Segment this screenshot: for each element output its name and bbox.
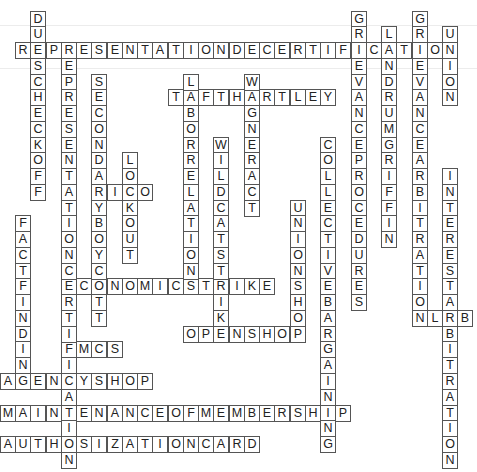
grid-cell: H [305, 405, 321, 422]
grid-cell: N [381, 58, 397, 75]
grid-cell: R [61, 294, 77, 311]
grid-cell: F [61, 341, 77, 358]
grid-cell: I [15, 341, 31, 358]
grid-cell: S [290, 405, 306, 422]
grid-cell: L [320, 184, 336, 201]
grid-cell: N [412, 310, 428, 327]
grid-cell: E [61, 278, 77, 295]
grid-cell: N [442, 452, 458, 469]
grid-cell: E [30, 373, 46, 390]
grid-cell: E [76, 42, 92, 59]
grid-cell: H [290, 294, 306, 311]
grid-cell: I [412, 278, 428, 295]
grid-cell: N [442, 184, 458, 201]
grid-cell: I [61, 215, 77, 232]
grid-cell: F [335, 42, 351, 59]
grid-cell: E [259, 278, 275, 295]
grid-cell: I [61, 326, 77, 343]
grid-cell: E [351, 215, 367, 232]
grid-cell: O [91, 278, 107, 295]
grid-cell: E [213, 326, 229, 343]
grid-cell: I [15, 294, 31, 311]
grid-cell: E [107, 42, 123, 59]
grid-cell: T [122, 247, 138, 264]
grid-cell: A [244, 168, 260, 185]
grid-cell: E [442, 247, 458, 264]
grid-cell: L [122, 152, 138, 169]
grid-cell: L [320, 168, 336, 185]
grid-cell: I [61, 357, 77, 374]
grid-cell: O [61, 231, 77, 248]
grid-cell: S [91, 42, 107, 59]
grid-cell: O [122, 373, 138, 390]
grid-cell: N [290, 215, 306, 232]
grid-cell: A [213, 215, 229, 232]
grid-cell: C [320, 215, 336, 232]
grid-cell: I [442, 58, 458, 75]
grid-cell: I [213, 294, 229, 311]
grid-cell: A [213, 436, 229, 453]
grid-cell: T [213, 89, 229, 106]
grid-cell: N [442, 89, 458, 106]
grid-cell: S [213, 247, 229, 264]
grid-cell: R [442, 310, 458, 327]
grid-cell: D [351, 231, 367, 248]
grid-cell: A [152, 42, 168, 59]
grid-cell: R [442, 373, 458, 390]
grid-cell: A [183, 89, 199, 106]
grid-cell: Z [107, 436, 123, 453]
grid-cell: O [351, 184, 367, 201]
grid-cell: U [15, 436, 31, 453]
grid-cell: N [412, 105, 428, 122]
grid-cell: E [259, 405, 275, 422]
grid-cell: O [442, 436, 458, 453]
grid-cell: R [351, 26, 367, 43]
grid-cell: R [213, 278, 229, 295]
grid-cell: R [91, 184, 107, 201]
grid-cell: A [61, 184, 77, 201]
grid-cell: Y [320, 89, 336, 106]
grid-cell: B [412, 184, 428, 201]
grid-cell: M [0, 405, 16, 422]
grid-cell: I [229, 278, 245, 295]
grid-cell: T [442, 278, 458, 295]
grid-cell: F [30, 168, 46, 185]
grid-cell: R [274, 405, 290, 422]
grid-cell: M [76, 341, 92, 358]
grid-cell: T [396, 42, 412, 59]
grid-cell: A [351, 89, 367, 106]
grid-cell: I [351, 42, 367, 59]
grid-cell: T [168, 89, 184, 106]
grid-cell: I [381, 215, 397, 232]
grid-cell: O [183, 247, 199, 264]
grid-cell: A [0, 373, 16, 390]
grid-cell: C [351, 121, 367, 138]
grid-cell: I [442, 341, 458, 358]
grid-cell: T [213, 263, 229, 280]
grid-cell: T [91, 294, 107, 311]
grid-cell: T [320, 231, 336, 248]
grid-cell: O [183, 121, 199, 138]
grid-cell: C [61, 373, 77, 390]
grid-cell: E [76, 405, 92, 422]
grid-cell: H [259, 326, 275, 343]
grid-cell: R [442, 231, 458, 248]
grid-cell: U [30, 26, 46, 43]
grid-cell: O [137, 184, 153, 201]
grid-cell: A [15, 231, 31, 248]
grid-cell: I [152, 436, 168, 453]
grid-cell: O [122, 215, 138, 232]
grid-cell: A [412, 89, 428, 106]
grid-cell: E [61, 58, 77, 75]
grid-cell: N [15, 357, 31, 374]
grid-cell: U [442, 26, 458, 43]
grid-cell: N [183, 436, 199, 453]
grid-cell: N [61, 247, 77, 264]
grid-cell: B [457, 310, 473, 327]
grid-cell: C [122, 184, 138, 201]
grid-cell: G [320, 341, 336, 358]
grid-cell: S [351, 294, 367, 311]
grid-cell: C [198, 436, 214, 453]
grid-cell: N [91, 405, 107, 422]
grid-cell: E [30, 105, 46, 122]
